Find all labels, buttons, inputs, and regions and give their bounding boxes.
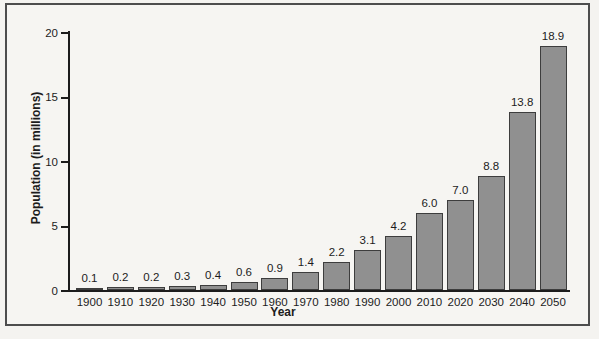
y-tick-mark — [61, 97, 68, 99]
bar — [169, 286, 196, 290]
y-tick-mark — [61, 161, 68, 163]
bar — [138, 287, 165, 290]
bar — [540, 46, 567, 290]
x-axis-title: Year — [253, 305, 313, 319]
bar — [323, 262, 350, 290]
bar-value-label: 6.0 — [409, 197, 449, 210]
x-tick-label: 2050 — [533, 296, 573, 309]
bar-value-label: 7.0 — [440, 184, 480, 197]
y-tick-mark — [61, 226, 68, 228]
y-tick-label: 10 — [28, 156, 58, 169]
y-tick-label: 5 — [28, 220, 58, 233]
bar — [478, 176, 505, 290]
plot-area: Population (in millions) 05101520 0.10.2… — [0, 0, 599, 339]
bar — [107, 287, 134, 290]
bar-value-label: 18.9 — [533, 30, 573, 43]
bar — [200, 285, 227, 290]
bar — [292, 272, 319, 290]
bar-chart-figure: Population (in millions) 05101520 0.10.2… — [0, 0, 599, 339]
y-tick-label: 15 — [28, 91, 58, 104]
y-tick-label: 0 — [28, 285, 58, 298]
bar-value-label: 13.8 — [502, 96, 542, 109]
y-tick-label: 20 — [28, 27, 58, 40]
bar-value-label: 3.1 — [348, 234, 388, 247]
bar — [447, 200, 474, 290]
bar — [385, 236, 412, 290]
bar — [354, 250, 381, 290]
bar — [76, 288, 103, 290]
bar-value-label: 8.8 — [471, 160, 511, 173]
y-axis-line — [68, 31, 70, 292]
y-tick-mark — [61, 32, 68, 34]
bar — [261, 278, 288, 290]
bar — [231, 282, 258, 290]
y-tick-mark — [61, 290, 68, 292]
bar — [509, 112, 536, 290]
bar-value-label: 2.2 — [317, 246, 357, 259]
x-axis-line — [68, 290, 570, 292]
bar-value-label: 4.2 — [379, 220, 419, 233]
bar — [416, 213, 443, 290]
